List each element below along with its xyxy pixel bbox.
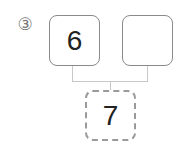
connector-center-vertical xyxy=(110,81,111,90)
box-top-right-answer[interactable] xyxy=(122,15,173,66)
box-bottom-total: 7 xyxy=(85,90,136,141)
connector-left-vertical xyxy=(72,66,73,82)
connector-right-vertical xyxy=(147,66,148,82)
problem-number: ③ xyxy=(16,15,34,33)
box-top-left: 6 xyxy=(49,15,100,66)
